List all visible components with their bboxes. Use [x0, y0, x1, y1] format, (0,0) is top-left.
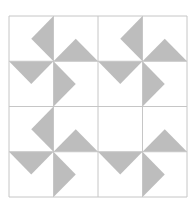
- triangle-upper-right: [143, 129, 188, 152]
- triangle-lower-left: [9, 61, 54, 84]
- pinwheel-quilt-diagram: [0, 0, 196, 205]
- triangle-upper-left: [31, 107, 53, 152]
- triangle-lower-left: [98, 61, 143, 84]
- triangle-upper-right: [143, 39, 188, 62]
- triangle-upper-left: [120, 16, 142, 61]
- triangle-lower-left: [9, 152, 54, 175]
- triangle-upper-right: [54, 39, 99, 62]
- triangle-lower-right: [54, 61, 76, 106]
- triangle-upper-left: [31, 16, 53, 61]
- triangle-lower-right: [54, 152, 76, 197]
- triangle-lower-right: [143, 61, 165, 106]
- triangle-upper-right: [54, 129, 99, 152]
- triangle-lower-right: [143, 152, 165, 197]
- triangle-lower-left: [98, 152, 143, 175]
